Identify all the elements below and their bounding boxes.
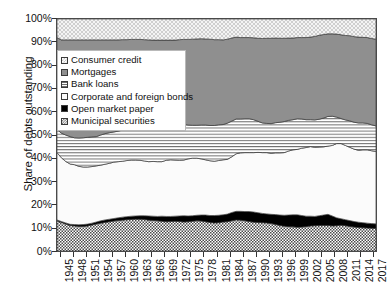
x-tick-mark — [151, 252, 152, 257]
x-tick-label: 1975 — [194, 259, 205, 282]
legend-item[interactable]: Municipal securities — [61, 115, 181, 127]
x-tick-label: 1993 — [273, 259, 284, 282]
x-tick-label: 2008 — [338, 259, 349, 282]
x-tick-mark — [190, 252, 191, 257]
legend-item-label: Open market paper — [71, 104, 154, 114]
legend-item[interactable]: Corporate and foreign bonds — [61, 91, 181, 103]
stacked-area-chart: Share of debts outstanding 100%90%80%70%… — [0, 0, 391, 306]
y-tick-label: 0% — [18, 246, 52, 256]
x-tick-mark — [347, 252, 348, 257]
consumer-credit-swatch — [61, 57, 68, 64]
x-tick-label: 1960 — [129, 259, 140, 282]
x-tick-label: 1951 — [90, 259, 101, 282]
legend-item[interactable]: Consumer credit — [61, 54, 181, 66]
y-tick-mark — [52, 65, 57, 66]
x-tick-mark — [86, 252, 87, 257]
y-tick-label: 40% — [18, 152, 52, 162]
x-tick-label: 1990 — [260, 259, 271, 282]
y-tick-label: 70% — [18, 82, 52, 92]
x-tick-mark — [321, 252, 322, 257]
legend-item-label: Corporate and foreign bonds — [71, 92, 193, 102]
x-tick-mark — [230, 252, 231, 257]
x-tick-label: 1963 — [142, 259, 153, 282]
x-tick-mark — [60, 252, 61, 257]
x-tick-label: 1987 — [247, 259, 258, 282]
legend-item[interactable]: Bank loans — [61, 78, 181, 90]
x-tick-label: 1945 — [64, 259, 75, 282]
legend-item-label: Consumer credit — [71, 55, 141, 65]
x-tick-mark — [164, 252, 165, 257]
x-tick-mark — [295, 252, 296, 257]
x-tick-label: 2017 — [377, 259, 388, 282]
x-tick-mark — [177, 252, 178, 257]
x-tick-mark — [112, 252, 113, 257]
x-tick-mark — [217, 252, 218, 257]
y-tick-label: 80% — [18, 59, 52, 69]
y-tick-label: 30% — [18, 176, 52, 186]
x-axis-ticks: 1945194819511954195719601963196619691972… — [56, 252, 377, 306]
x-tick-label: 1978 — [207, 259, 218, 282]
x-tick-mark — [243, 252, 244, 257]
y-tick-mark — [52, 158, 57, 159]
y-tick-mark — [52, 18, 57, 19]
y-tick-mark — [52, 41, 57, 42]
x-tick-label: 1996 — [286, 259, 297, 282]
y-tick-mark — [52, 204, 57, 205]
chart-legend: Consumer creditMortgagesBank loansCorpor… — [57, 50, 186, 131]
x-tick-label: 1957 — [116, 259, 127, 282]
y-tick-label: 50% — [18, 129, 52, 139]
y-tick-label: 90% — [18, 36, 52, 46]
x-tick-label: 2002 — [312, 259, 323, 282]
x-tick-label: 1966 — [155, 259, 166, 282]
legend-item-label: Bank loans — [71, 79, 118, 89]
mortgages-swatch — [61, 69, 68, 76]
y-tick-mark — [52, 135, 57, 136]
x-tick-mark — [334, 252, 335, 257]
x-tick-mark — [138, 252, 139, 257]
y-tick-mark — [52, 181, 57, 182]
x-tick-label: 1972 — [181, 259, 192, 282]
x-tick-label: 1948 — [77, 259, 88, 282]
x-tick-label: 2014 — [364, 259, 375, 282]
y-tick-mark — [52, 251, 57, 252]
x-tick-mark — [308, 252, 309, 257]
x-tick-label: 1999 — [299, 259, 310, 282]
x-tick-label: 1969 — [168, 259, 179, 282]
x-tick-label: 1984 — [234, 259, 245, 282]
x-tick-mark — [125, 252, 126, 257]
y-tick-label: 20% — [18, 199, 52, 209]
x-tick-mark — [203, 252, 204, 257]
open-market-paper-swatch — [61, 105, 68, 112]
bank-loans-swatch — [61, 81, 68, 88]
x-tick-mark — [99, 252, 100, 257]
corporate-bonds-swatch — [61, 93, 68, 100]
x-tick-mark — [360, 252, 361, 257]
x-tick-label: 2011 — [351, 259, 362, 282]
y-tick-mark — [52, 88, 57, 89]
y-tick-mark — [52, 228, 57, 229]
y-tick-label: 10% — [18, 222, 52, 232]
legend-item-label: Municipal securities — [71, 116, 155, 126]
y-axis-ticks: 100%90%80%70%60%50%40%30%20%10%0% — [16, 0, 52, 306]
x-tick-label: 2005 — [325, 259, 336, 282]
legend-item[interactable]: Mortgages — [61, 66, 181, 78]
y-tick-label: 100% — [18, 13, 52, 23]
municipal-securities-swatch — [61, 118, 68, 125]
y-tick-label: 60% — [18, 106, 52, 116]
legend-item[interactable]: Open market paper — [61, 103, 181, 115]
y-tick-mark — [52, 111, 57, 112]
x-tick-label: 1954 — [103, 259, 114, 282]
x-tick-mark — [73, 252, 74, 257]
x-tick-mark — [256, 252, 257, 257]
legend-item-label: Mortgages — [71, 67, 116, 77]
x-tick-label: 1981 — [221, 259, 232, 282]
x-tick-mark — [282, 252, 283, 257]
x-tick-mark — [373, 252, 374, 257]
x-tick-mark — [269, 252, 270, 257]
